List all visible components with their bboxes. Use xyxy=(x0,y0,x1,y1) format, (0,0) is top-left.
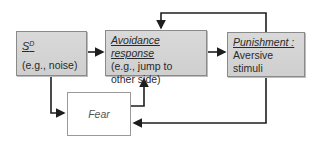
fear-node: Fear xyxy=(67,92,131,136)
sd-node: SD (e.g., noise) xyxy=(16,31,87,76)
sd-title: SD xyxy=(22,37,81,53)
sd-subtitle: (e.g., noise) xyxy=(22,59,81,72)
arrow-sd-to-fear xyxy=(51,76,64,113)
punishment-line1: Aversive xyxy=(233,49,299,62)
avoidance-line1: (e.g., jump to xyxy=(111,60,201,73)
avoidance-response-node: Avoidance response (e.g., jump to other … xyxy=(105,30,207,76)
avoidance-line2: other side) xyxy=(111,73,201,86)
punishment-node: Punishment : Aversive stimuli xyxy=(227,32,305,77)
punishment-title: Punishment : xyxy=(233,36,299,49)
fear-label: Fear xyxy=(88,108,110,121)
avoidance-title: Avoidance response xyxy=(111,34,201,60)
punishment-line2: stimuli xyxy=(233,62,299,75)
